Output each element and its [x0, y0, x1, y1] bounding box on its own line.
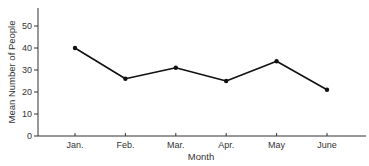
x-tick-label: Jan. — [66, 140, 83, 150]
data-point — [325, 88, 329, 92]
y-tick-label: 40 — [22, 43, 32, 53]
data-series — [73, 46, 329, 92]
x-tick-label: Apr. — [218, 140, 234, 150]
y-tick-label: 30 — [22, 65, 32, 75]
y-axis: 01020304050 — [22, 8, 38, 141]
x-tick-label: June — [317, 140, 337, 150]
series-line — [75, 48, 327, 90]
y-axis-title: Mean Number of People — [6, 21, 17, 124]
x-tick-label: May — [268, 140, 286, 150]
y-tick-label: 10 — [22, 109, 32, 119]
x-axis-title: Month — [188, 151, 214, 162]
data-point — [224, 79, 228, 83]
x-tick-label: Mar. — [167, 140, 185, 150]
x-tick-label: Feb. — [116, 140, 134, 150]
line-chart: 01020304050 Jan.Feb.Mar.Apr.MayJune Mean… — [0, 0, 369, 166]
x-axis: Jan.Feb.Mar.Apr.MayJune — [38, 133, 366, 150]
data-point — [123, 77, 127, 81]
y-tick-label: 50 — [22, 21, 32, 31]
data-point — [73, 46, 77, 50]
data-point — [174, 66, 178, 70]
y-tick-label: 0 — [27, 131, 32, 141]
y-tick-label: 20 — [22, 87, 32, 97]
data-point — [274, 59, 278, 63]
